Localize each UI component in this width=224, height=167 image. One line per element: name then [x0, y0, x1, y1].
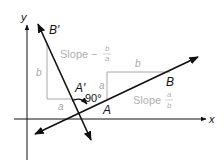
angle-90-label: 90°: [85, 92, 102, 104]
y-axis-label: y: [20, 11, 28, 23]
point-b-label: B: [166, 75, 174, 89]
slope-left-denominator: a: [105, 54, 110, 63]
slope-right-text: Slope: [133, 94, 161, 106]
slope-right-denominator: b: [167, 101, 172, 110]
point-b-prime-label: B′: [49, 23, 60, 37]
left-b-label: b: [36, 67, 42, 78]
right-b-label: b: [135, 58, 141, 69]
slope-right-numerator: a: [167, 90, 172, 99]
perpendicular-slopes-diagram: x y b a a b B′ A′ A B 90° Slope − b a Sl…: [0, 0, 224, 167]
x-axis-label: x: [208, 113, 215, 125]
point-a-label: A: [102, 103, 111, 117]
left-a-label: a: [58, 101, 64, 112]
right-a-label: a: [99, 80, 105, 91]
slope-left-sign: −: [91, 48, 97, 60]
line-a-b: [35, 57, 198, 134]
slope-left-text: Slope: [60, 48, 88, 60]
slope-left-numerator: b: [105, 44, 110, 53]
